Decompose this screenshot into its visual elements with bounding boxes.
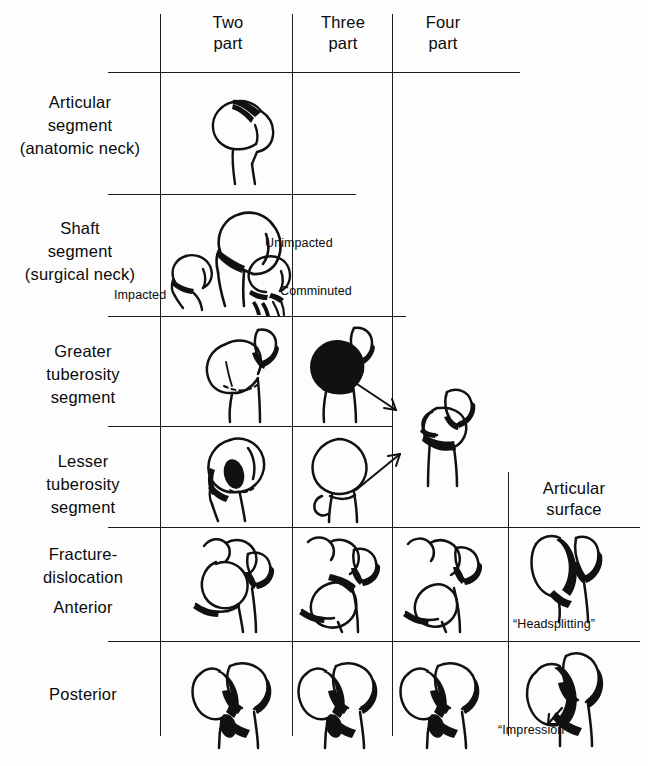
grid-vline-4 bbox=[508, 472, 509, 736]
figure-greater-tuberosity-two-part bbox=[196, 322, 290, 426]
grid-hline-1 bbox=[108, 72, 520, 73]
row-label-articular-segment: Articular segment (anatomic neck) bbox=[2, 91, 158, 160]
figure-fracture-dislocation-anterior-two-part bbox=[186, 532, 290, 636]
column-header-articular-surface: Articular surface bbox=[512, 478, 636, 520]
figure-articular-surface-impression bbox=[518, 646, 614, 750]
figure-articular-surface-headsplitting bbox=[520, 528, 612, 624]
grid-vline-1 bbox=[160, 14, 161, 736]
figure-fracture-dislocation-posterior-two-part bbox=[186, 652, 290, 752]
figure-fracture-dislocation-anterior-four-part bbox=[396, 532, 496, 636]
row-label-lesser-tuberosity: Lesser tuberosity segment bbox=[10, 450, 156, 519]
figure-shaft-segment-comminuted bbox=[243, 252, 303, 318]
row-label-shaft-segment: Shaft segment (surgical neck) bbox=[2, 217, 158, 286]
figure-articular-segment-two-part bbox=[200, 92, 290, 188]
row-label-greater-tuberosity: Greater tuberosity segment bbox=[10, 340, 156, 409]
figure-fracture-dislocation-posterior-three-part bbox=[294, 652, 394, 752]
grid-vline-2 bbox=[292, 14, 293, 736]
row-label-fracture-dislocation: Fracture- dislocation bbox=[10, 543, 156, 589]
grid-hline-4 bbox=[108, 426, 392, 427]
row-label-posterior: Posterior bbox=[10, 683, 156, 706]
column-header-three-part: Three part bbox=[300, 12, 386, 54]
arrow-lesser-tuberosity-to-four-part bbox=[352, 448, 412, 494]
figure-fracture-dislocation-anterior-three-part bbox=[294, 532, 392, 636]
grid-hline-2 bbox=[108, 194, 356, 195]
figure-four-part bbox=[404, 378, 492, 490]
neer-classification-chart: Two part Three part Four part Articular … bbox=[0, 0, 648, 766]
grid-hline-6 bbox=[108, 641, 640, 642]
arrow-greater-tuberosity-to-four-part bbox=[344, 374, 410, 420]
figure-lesser-tuberosity-two-part bbox=[196, 432, 284, 524]
annotation-impacted: Impacted bbox=[114, 288, 166, 303]
figure-fracture-dislocation-posterior-four-part bbox=[396, 652, 496, 752]
row-label-anterior: Anterior bbox=[10, 596, 156, 619]
column-header-two-part: Two part bbox=[172, 12, 284, 54]
column-header-four-part: Four part bbox=[400, 12, 486, 54]
